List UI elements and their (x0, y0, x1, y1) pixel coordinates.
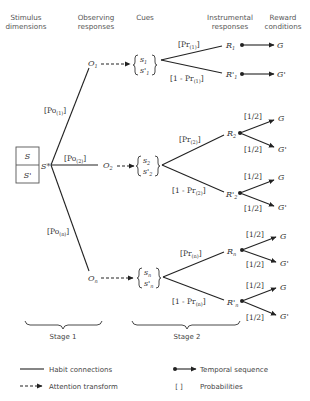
stage-1-brace (25, 321, 102, 329)
cue-brace-right (155, 156, 160, 176)
reward-g-prime: G' (277, 70, 286, 79)
pr-label-n: [Pr(n)] (180, 249, 202, 259)
legend-temporal-label: Temporal sequence (199, 366, 268, 374)
observing-node-on: On (88, 274, 98, 284)
prob-half: [1/2] (244, 204, 262, 213)
stimulus-compound: S* (41, 162, 50, 171)
stage-1-group: Stage 1 (25, 321, 102, 341)
reward-g-prime: G' (278, 145, 287, 154)
cue-brace-right (152, 55, 157, 75)
instrumental-branch-2: [Pr(2)] [1 - Pr(2)] R2 R'2 [1/2] [1/2] G… (162, 112, 287, 213)
temporal-arrow (240, 120, 274, 133)
one-minus-pr-label-1: [1 - Pr(1)] (170, 74, 204, 84)
header-cues: Cues (136, 13, 154, 22)
reward-g: G (278, 114, 285, 123)
one-minus-pr-label-n: [1 - Pr(n)] (172, 297, 206, 307)
prob-half: [1/2] (244, 172, 262, 181)
habit-line-o1 (51, 68, 89, 165)
response-r1: R1 (225, 41, 235, 51)
cue-s2: s2 (143, 156, 150, 166)
cue-brace-left (137, 268, 142, 288)
habit-line-on (51, 165, 89, 271)
response-r2: R2 (226, 129, 236, 139)
response-r1-prime: R'1 (225, 70, 237, 80)
legend-attention-label: Attention transform (49, 383, 118, 391)
reward-g-prime: G' (280, 259, 289, 268)
pr-label-1: [Pr(1)] (178, 40, 200, 50)
response-r2-prime: R'2 (225, 190, 237, 200)
reward-g: G (280, 283, 287, 292)
header-instrumental-line2: responses (212, 22, 249, 31)
cue-group-1: s1 s'1 (133, 55, 157, 76)
pr-label-2: [Pr(2)] (179, 135, 201, 145)
legend: Habit connections Attention transform Te… (20, 366, 268, 391)
cue-brace-left (133, 55, 138, 75)
prob-half: [1/2] (246, 281, 264, 290)
instrumental-branch-1: [Pr(1)] [1 - Pr(1)] R1 R'1 G G' (161, 40, 286, 84)
cue-s1-prime: s'1 (140, 66, 150, 76)
reward-g: G (278, 173, 285, 182)
observing-node-o1: O1 (88, 59, 98, 69)
cue-group-2: s2 s'2 (136, 156, 160, 177)
po-label-2: [Po(2)] (64, 154, 86, 164)
prob-half: [1/2] (246, 230, 264, 239)
habit-line-r1-prime (161, 60, 222, 73)
instrumental-branch-n: [Pr(n)] [1 - Pr(n)] Rn R'n [1/2] [1/2] G… (163, 230, 289, 322)
observing-connections (51, 68, 98, 271)
legend-habit-label: Habit connections (49, 366, 112, 374)
cue-sn-prime: s'n (144, 279, 154, 289)
header-reward-line1: Reward (270, 13, 297, 22)
stimulus-s-prime: S' (24, 171, 32, 180)
one-minus-pr-label-2: [1 - Pr(2)] (172, 186, 206, 196)
header-instrumental-line1: Instrumental (207, 13, 253, 22)
header-stimulus-line1: Stimulus (10, 13, 41, 22)
stage-2-label: Stage 2 (174, 333, 201, 341)
reward-g-prime: G' (280, 312, 289, 321)
po-label-n: [Po(n)] (47, 227, 69, 237)
stimulus-s: S (25, 152, 31, 161)
temporal-arrow (240, 180, 274, 193)
prob-half: [1/2] (244, 145, 262, 154)
header-observing-line2: responses (78, 22, 115, 31)
cue-s1: s1 (140, 55, 147, 65)
response-rn: Rn (226, 247, 236, 257)
stage-2-group: Stage 2 (132, 321, 240, 341)
header-observing-line1: Observing (78, 13, 115, 22)
stage-1-label: Stage 1 (50, 333, 77, 341)
legend-bracket-symbol: [ ] (175, 383, 183, 391)
header-stimulus-line2: dimensions (6, 22, 47, 31)
cue-group-n: sn s'n (137, 268, 161, 289)
reward-g: G (277, 41, 284, 50)
prob-half: [1/2] (244, 112, 262, 121)
header-reward-line2: conditions (265, 22, 302, 31)
stage-2-brace (132, 321, 240, 329)
po-label-1: [Po(1)] (44, 106, 66, 116)
reward-g: G (280, 232, 287, 241)
cue-brace-left (136, 156, 141, 176)
cue-brace-right (156, 268, 161, 288)
legend-probabilities-label: Probabilities (200, 383, 243, 391)
prob-half: [1/2] (246, 260, 264, 269)
reward-g-prime: G' (278, 203, 287, 212)
stimulus-box: S S' S* (16, 147, 50, 183)
cue-sn: sn (144, 268, 151, 278)
response-rn-prime: R'n (226, 298, 238, 308)
attention-model-diagram: Stimulus dimensions Observing responses … (0, 0, 310, 401)
prob-half: [1/2] (246, 313, 264, 322)
cue-s2-prime: s'2 (143, 167, 153, 177)
column-headers: Stimulus dimensions Observing responses … (6, 13, 302, 31)
observing-node-o2: O2 (103, 161, 113, 171)
